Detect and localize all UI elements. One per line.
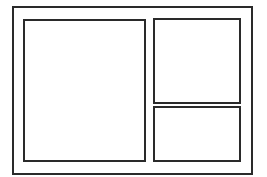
top-right-panel — [153, 18, 241, 104]
left-panel — [23, 19, 146, 162]
bottom-right-panel — [153, 106, 241, 162]
